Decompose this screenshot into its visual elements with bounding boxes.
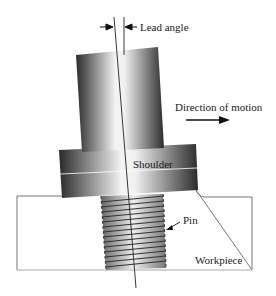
lead-angle-arrows	[100, 24, 137, 30]
shoulder-label: Shoulder	[133, 158, 173, 170]
tool-shank	[76, 47, 164, 152]
workpiece-label: Workpiece	[195, 254, 242, 266]
pin-label: Pin	[183, 214, 198, 226]
direction-of-motion-label: Direction of motion	[175, 101, 263, 113]
direction-arrow-icon	[186, 116, 230, 124]
friction-stir-tool-diagram: Lead angle Direction of motion Shoulder …	[0, 0, 276, 296]
lead-angle-label: Lead angle	[140, 21, 189, 33]
pin-pointer	[166, 222, 180, 230]
